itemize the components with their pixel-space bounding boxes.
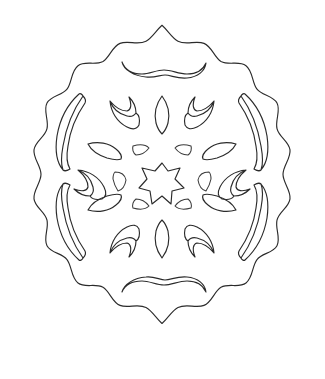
page-background bbox=[0, 0, 325, 379]
coloring-page-canvas: Snowflake Doily Coloring Page bbox=[0, 0, 325, 379]
snowflake-doily-artwork bbox=[0, 0, 325, 379]
